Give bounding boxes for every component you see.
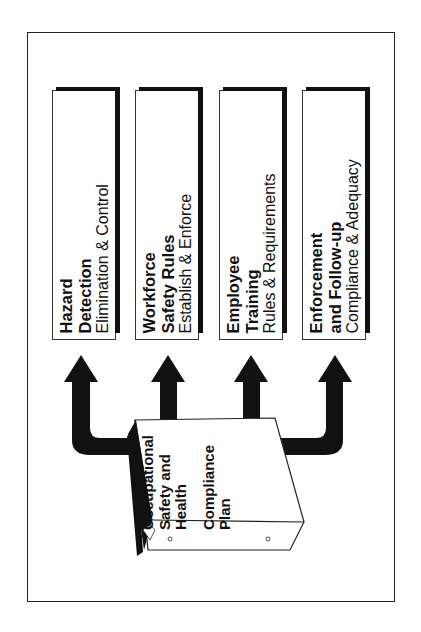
arrow-to-employee-training: [243, 382, 260, 422]
target-box-employee-training: Employee Training Rules & Requirements: [219, 90, 283, 340]
box-subtitle: Elimination & Control: [94, 93, 113, 333]
binder-label-line: Compliance: [201, 420, 218, 530]
spacer: [190, 420, 201, 530]
box-shadow: [306, 87, 370, 91]
target-box-enforcement-follow-up: Enforcement and Follow-up Compliance & A…: [302, 90, 366, 340]
binder-label-line: Occupational: [140, 420, 157, 530]
target-box-hazard-detection: Hazard Detection Elimination & Control: [52, 90, 116, 340]
binder-label-line: Plan: [217, 420, 234, 530]
box-title-line: Safety Rules: [159, 93, 178, 333]
arrow-to-hazard-detection: [72, 382, 130, 455]
box-text: Employee Training Rules & Requirements: [224, 93, 280, 333]
box-shadow: [198, 87, 203, 333]
box-subtitle: Establish & Enforce: [177, 93, 196, 333]
binder-label-line: Health: [173, 420, 190, 530]
box-title-line: Employee: [224, 93, 243, 333]
box-text: Enforcement and Follow-up Compliance & A…: [307, 93, 363, 333]
box-shadow: [223, 87, 287, 91]
box-title-line: and Follow-up: [326, 93, 345, 333]
box-title-line: Training: [243, 93, 262, 333]
box-title-line: Workforce: [140, 93, 159, 333]
box-title-line: Enforcement: [307, 93, 326, 333]
arrow-to-workforce-safety-rules: [160, 382, 177, 422]
box-shadow: [282, 87, 287, 333]
box-title-line: Detection: [76, 93, 95, 333]
box-text: Workforce Safety Rules Establish & Enfor…: [140, 93, 196, 333]
box-shadow: [139, 87, 203, 91]
binder-label: Occupational Safety and Health Complianc…: [140, 420, 234, 530]
box-title-line: Hazard: [57, 93, 76, 333]
box-shadow: [56, 87, 120, 91]
arrow-to-enforcement: [280, 382, 343, 455]
box-shadow: [115, 87, 120, 333]
binder-label-line: Safety and: [157, 420, 174, 530]
box-subtitle: Compliance & Adequacy: [344, 93, 363, 333]
box-subtitle: Rules & Requirements: [261, 93, 280, 333]
target-box-workforce-safety-rules: Workforce Safety Rules Establish & Enfor…: [135, 90, 199, 340]
box-shadow: [365, 87, 370, 333]
box-text: Hazard Detection Elimination & Control: [57, 93, 113, 333]
